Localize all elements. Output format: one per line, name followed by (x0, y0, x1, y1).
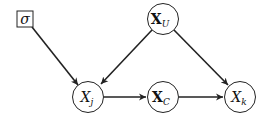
node-xc-label: X (152, 89, 163, 105)
causal-graph-diagram: σ XU Xj XC Xk (0, 0, 266, 118)
edges (32, 27, 228, 97)
node-sigma: σ (17, 11, 33, 28)
edge-xu-to-xk (174, 30, 228, 85)
node-xc-sub: C (163, 97, 170, 107)
node-xk: Xk (225, 82, 256, 113)
node-xu-label: X (151, 11, 162, 27)
node-xc: XC (148, 82, 179, 113)
edge-xu-to-xj (101, 30, 152, 84)
node-xu: XU (148, 4, 179, 35)
node-xu-sub: U (162, 19, 170, 29)
node-xj: Xj (73, 82, 104, 113)
edge-sigma-to-xj (32, 27, 78, 85)
node-xk-sub: k (241, 97, 246, 107)
node-sigma-label: σ (20, 11, 30, 27)
